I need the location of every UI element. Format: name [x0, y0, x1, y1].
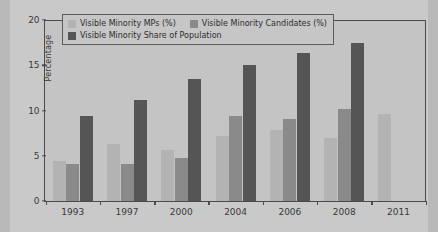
legend-entry-candidates[interactable]: Visible Minority Candidates (%) — [190, 19, 327, 28]
left-margin-strip — [0, 0, 10, 232]
bar — [229, 116, 242, 201]
legend-label-mps: Visible Minority MPs (%) — [80, 19, 176, 28]
bar — [324, 138, 337, 201]
x-tick-mark — [46, 201, 47, 205]
y-tick-label: 15 — [28, 60, 39, 70]
bar — [338, 109, 351, 201]
bar — [297, 53, 310, 201]
bar — [188, 79, 201, 201]
bar — [175, 158, 188, 201]
right-margin-strip — [428, 0, 438, 232]
y-axis-label: Percentage — [44, 10, 53, 106]
bar — [121, 164, 134, 201]
bar — [243, 65, 256, 201]
bar — [216, 136, 229, 201]
legend-row-top: Visible Minority MPs (%) Visible Minorit… — [68, 19, 327, 28]
x-tick-label: 2008 — [333, 207, 356, 217]
x-tick-mark — [426, 201, 427, 205]
bar — [378, 114, 391, 201]
legend-label-candidates: Visible Minority Candidates (%) — [202, 19, 327, 28]
bar — [161, 150, 174, 201]
y-tick-label: 5 — [34, 151, 40, 161]
legend: Visible Minority MPs (%) Visible Minorit… — [62, 14, 334, 45]
x-tick-mark — [100, 201, 101, 205]
legend-label-population: Visible Minority Share of Population — [80, 31, 222, 40]
bar — [53, 161, 66, 201]
legend-swatch-candidates — [190, 20, 198, 28]
x-tick-mark — [317, 201, 318, 205]
bar — [134, 100, 147, 201]
y-tick-mark — [42, 19, 46, 20]
x-tick-mark — [208, 201, 209, 205]
y-tick-label: 0 — [34, 196, 40, 206]
x-tick-mark — [263, 201, 264, 205]
x-tick-label: 2000 — [170, 207, 193, 217]
legend-swatch-mps — [68, 20, 76, 28]
x-tick-label: 1997 — [116, 207, 139, 217]
bar — [107, 144, 120, 201]
legend-swatch-population — [68, 32, 76, 40]
x-tick-label: 2006 — [278, 207, 301, 217]
bar-chart: Percentage 05101520 19931997200020042006… — [0, 0, 438, 232]
x-tick-mark — [154, 201, 155, 205]
y-tick-label: 20 — [28, 15, 39, 25]
x-tick-label: 2011 — [387, 207, 410, 217]
y-tick-mark — [42, 110, 46, 111]
x-tick-label: 2004 — [224, 207, 247, 217]
x-tick-label: 1993 — [61, 207, 84, 217]
x-tick-mark — [371, 201, 372, 205]
y-tick-label: 10 — [28, 106, 39, 116]
legend-entry-mps[interactable]: Visible Minority MPs (%) — [68, 19, 176, 28]
legend-row-bottom: Visible Minority Share of Population — [68, 31, 327, 40]
y-tick-mark — [42, 155, 46, 156]
legend-entry-population[interactable]: Visible Minority Share of Population — [68, 31, 222, 40]
plot-area: Percentage 05101520 19931997200020042006… — [46, 20, 426, 201]
y-tick-mark — [42, 65, 46, 66]
bar — [66, 164, 79, 201]
bar — [270, 130, 283, 201]
bar — [351, 43, 364, 201]
bar — [80, 116, 93, 201]
bar — [283, 119, 296, 201]
